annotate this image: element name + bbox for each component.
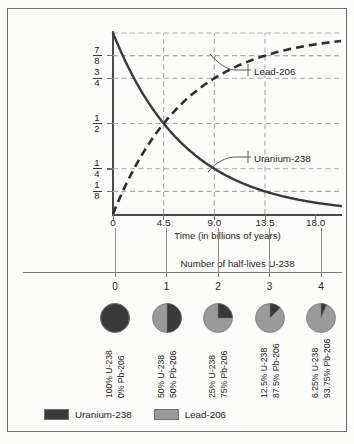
x-tick-label-2: 9.0 [194,217,234,228]
half-life-tick-4 [321,228,322,277]
pie-chart-half-life-0 [100,303,130,333]
pie-chart-half-life-2 [203,303,233,333]
pie-label-uranium-3: 12.5% U-238 [259,348,269,398]
pie-slice-uranium-238 [167,304,182,333]
half-life-label-3: 3 [257,281,283,292]
half-life-label-2: 2 [205,281,231,292]
pie-label-lead-0: 0% Pb-206 [116,355,126,398]
x-tick-label-3: 13.5 [245,217,285,228]
half-life-label-0: 0 [102,281,128,292]
pie-label-lead-3: 87.5% Pb-206 [271,344,281,398]
half-life-tick-2 [218,228,219,277]
x-axis-title: Time (in billions of years) [110,230,345,241]
fraction-denominator: 8 [88,192,106,201]
x-tick-label-0: 0 [93,217,133,228]
legend-label-lead-206: Lead-206 [185,409,226,420]
pie-chart-half-life-4 [306,303,336,333]
pie-label-lead-1: 50% Pb-206 [168,351,178,398]
annotation-lead-206: Lead-206 [254,66,295,77]
pie-label-lead-4: 93.75% Pb-206 [322,339,332,398]
annotation-uranium-238: Uranium-238 [254,153,311,164]
y-tick-0 [107,191,113,192]
y-tick-label-4: 78 [88,46,106,66]
pie-label-lead-2: 75% Pb-206 [219,351,229,398]
half-life-label-1: 1 [154,281,180,292]
y-tick-4 [107,55,113,56]
fraction-denominator: 4 [88,79,106,88]
figure-canvas: Fraction of original mass (of uranium–23… [0,0,354,444]
pie-label-uranium-4: 6.25% U-238 [310,348,320,398]
pie-slice-uranium-238 [218,304,233,319]
pie-slice-uranium-238 [101,304,130,333]
legend-item-uranium-238: Uranium-238 [44,409,132,420]
y-tick-label-2: 12 [88,114,106,134]
fraction-numerator: 1 [88,159,106,168]
y-tick-label-0: 18 [88,181,106,201]
x-axis-line [112,214,342,216]
half-life-label-4: 4 [308,281,334,292]
legend-swatch-lead-206 [154,409,179,420]
legend: Uranium-238 Lead-206 [44,409,226,420]
legend-label-uranium-238: Uranium-238 [75,409,132,420]
pie-chart-half-life-1 [152,303,182,333]
fraction-denominator: 8 [88,57,106,66]
y-tick-label-1: 14 [88,159,106,179]
half-lives-axis-line [23,272,342,273]
fraction-numerator: 1 [88,181,106,190]
y-tick-2 [107,123,113,124]
x-tick-label-1: 4.5 [144,217,184,228]
y-tick-1 [107,168,113,169]
fraction-numerator: 3 [88,68,106,77]
fraction-denominator: 2 [88,125,106,134]
legend-item-lead-206: Lead-206 [154,409,226,420]
pie-label-uranium-0: 100% U-238 [104,350,114,398]
fraction-denominator: 4 [88,170,106,179]
half-lives-axis-title: Number of half-lives U-238 [130,258,345,269]
fraction-numerator: 1 [88,114,106,123]
pie-chart-half-life-3 [255,303,285,333]
fraction-numerator: 7 [88,46,106,55]
pie-label-uranium-1: 50% U-238 [156,355,166,398]
pie-label-uranium-2: 25% U-238 [207,355,217,398]
half-life-tick-3 [269,228,270,277]
legend-swatch-uranium-238 [44,409,69,420]
y-tick-label-3: 34 [88,68,106,88]
half-life-tick-0 [115,228,116,277]
x-tick-label-4: 18.0 [296,217,336,228]
y-tick-3 [107,78,113,79]
half-life-tick-1 [166,228,167,277]
